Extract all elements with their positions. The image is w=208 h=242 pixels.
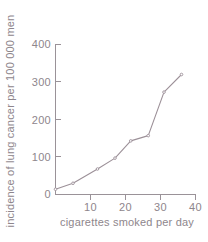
y-axis-ticks <box>56 45 61 157</box>
line-chart: 400 300 200 100 0 10 20 30 40 cigarettes… <box>0 0 208 242</box>
x-axis-tick-labels: 10 20 30 40 <box>84 201 202 213</box>
data-point <box>96 168 99 171</box>
y-axis-tick-labels: 400 300 200 100 0 <box>32 38 51 200</box>
y-tick-label-100: 100 <box>32 151 51 163</box>
x-axis-title: cigarettes smoked per day <box>60 216 194 228</box>
y-tick-label-400: 400 <box>32 38 51 50</box>
data-point <box>114 157 117 160</box>
data-point <box>163 91 166 94</box>
x-tick-label-20: 20 <box>119 201 132 213</box>
axis-lines <box>55 44 196 195</box>
data-series-lung-cancer <box>54 73 183 190</box>
data-point <box>180 73 183 76</box>
x-tick-label-40: 40 <box>189 201 202 213</box>
x-tick-label-10: 10 <box>84 201 97 213</box>
data-point <box>129 140 132 143</box>
data-point <box>147 134 150 137</box>
data-point <box>54 188 57 191</box>
y-tick-label-0: 0 <box>45 188 51 200</box>
data-marker-group <box>54 73 183 190</box>
y-axis-title: incidence of lung cancer per 100 000 men <box>4 15 16 228</box>
y-tick-label-200: 200 <box>32 114 51 126</box>
data-point <box>72 182 75 185</box>
x-tick-label-30: 30 <box>154 201 167 213</box>
y-tick-label-300: 300 <box>32 76 51 88</box>
x-axis-ticks <box>91 195 196 200</box>
chart-figure: 400 300 200 100 0 10 20 30 40 cigarettes… <box>0 0 208 242</box>
